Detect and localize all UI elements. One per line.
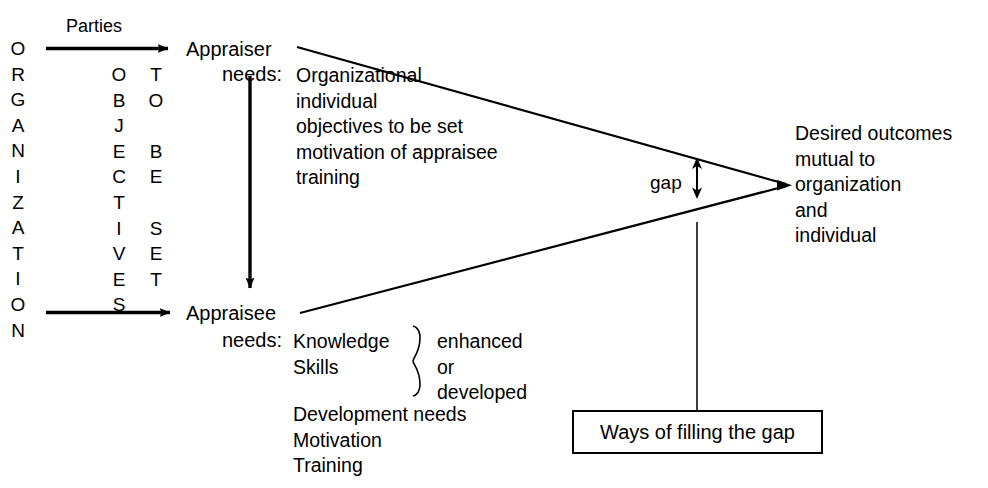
organization-vertical-label: O R G A N I Z A T I O N — [8, 36, 28, 343]
appraiser-needs-label: needs: — [222, 64, 282, 84]
line-appraisee-to-apex — [300, 186, 786, 313]
appraisee-heading: Appraisee — [186, 303, 276, 323]
apex-arrowhead — [777, 180, 792, 190]
gap-double-arrow — [692, 158, 702, 200]
desired-outcomes-text: Desired outcomes mutual to organization … — [795, 121, 952, 249]
appraiser-heading: Appraiser — [186, 39, 272, 59]
appraisee-needs-label: needs: — [222, 330, 282, 350]
appraisee-braced-items: Knowledge Skills — [293, 329, 390, 380]
parties-label: Parties — [66, 16, 122, 37]
ways-of-filling-the-gap-label: Ways of filling the gap — [600, 421, 795, 444]
appraisee-brace-outcomes: enhanced or developed — [437, 329, 527, 406]
appraiser-needs-list: Organizational individual objectives to … — [296, 63, 498, 191]
curly-brace-icon — [410, 325, 430, 397]
appraisal-gap-diagram: O R G A N I Z A T I O N O B J E C T I V … — [0, 0, 988, 488]
ways-of-filling-the-gap-box: Ways of filling the gap — [572, 410, 823, 454]
gap-label: gap — [650, 172, 682, 194]
appraisee-other-needs: Development needs Motivation Training — [293, 402, 466, 479]
objectives-vertical-label: O B J E C T I V E S — [109, 62, 129, 318]
to-be-set-vertical-label: T O B E S E T — [146, 62, 166, 292]
